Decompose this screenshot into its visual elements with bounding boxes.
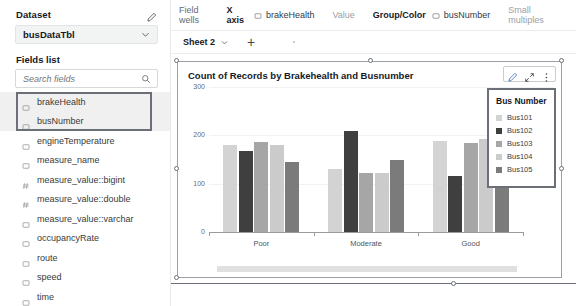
string-field-icon	[432, 6, 440, 24]
legend-item[interactable]: Bus105	[496, 163, 554, 176]
x-axis-tick	[523, 232, 524, 236]
field-list-item[interactable]: measure_value::varchar	[0, 209, 170, 229]
chart-bar[interactable]	[223, 145, 237, 232]
chevron-down-icon	[140, 26, 151, 44]
chart-bar[interactable]	[254, 142, 268, 232]
number-field-icon	[22, 195, 30, 203]
legend-swatch	[496, 141, 502, 147]
dataset-select[interactable]: busDataTbl	[15, 25, 158, 44]
legend-swatch	[496, 167, 502, 173]
fields-list: brakeHealthbusNumberengineTemperaturemea…	[0, 92, 170, 306]
group-color-label: Group/Color	[373, 10, 426, 20]
x-axis-tick	[418, 232, 419, 236]
search-fields-box[interactable]	[15, 69, 158, 88]
x-axis-label: X axis	[227, 5, 248, 25]
pencil-icon[interactable]	[146, 9, 157, 20]
x-axis-tick	[209, 232, 210, 236]
field-list-item[interactable]: occupancyRate	[0, 229, 170, 249]
resize-handle-mr[interactable]	[559, 166, 564, 171]
legend[interactable]: Bus Number Bus101Bus102Bus103Bus104Bus10…	[487, 88, 556, 188]
expand-arrows-icon[interactable]	[524, 69, 535, 80]
plus-icon[interactable]: +	[241, 35, 261, 49]
field-list-item[interactable]: busNumber	[0, 112, 170, 132]
resize-handle-ml[interactable]	[174, 166, 179, 171]
legend-swatch	[496, 154, 502, 160]
resize-handle-tl[interactable]	[174, 58, 179, 63]
sheet-tab-label: Sheet 2	[183, 37, 215, 47]
string-field-icon	[22, 293, 30, 301]
field-list-item[interactable]: speed	[0, 268, 170, 288]
field-list-item-label: busNumber	[37, 116, 84, 126]
x-axis-category-label: Moderate	[314, 239, 419, 248]
string-field-icon	[22, 98, 30, 106]
x-axis-field-pill[interactable]: brakeHealth	[254, 6, 315, 24]
legend-item[interactable]: Bus101	[496, 111, 554, 124]
scrollbar-thumb[interactable]	[217, 266, 517, 272]
resize-handle-tc[interactable]	[368, 58, 373, 63]
chart-bar[interactable]	[344, 131, 358, 232]
group-color-field-pill[interactable]: busNumber	[432, 6, 491, 24]
right-content-area: Field wells X axis brakeHealth Value Gro…	[171, 0, 576, 306]
chart-bar[interactable]	[270, 145, 284, 232]
chart-bar[interactable]	[433, 141, 447, 232]
y-axis-tick-label: 100	[187, 180, 205, 187]
field-list-item-label: time	[37, 292, 54, 302]
field-list-item[interactable]: engineTemperature	[0, 131, 170, 151]
legend-swatch	[496, 115, 502, 121]
field-list-item-label: occupancyRate	[37, 233, 99, 243]
visual-container[interactable]: Count of Records by Brakehealth and Busn…	[177, 61, 562, 278]
search-input[interactable]	[23, 74, 138, 84]
dataset-value: busDataTbl	[23, 29, 75, 40]
field-list-item-label: measure_value::double	[37, 194, 131, 204]
pencil-icon[interactable]	[507, 69, 518, 80]
y-axis-tick-label: 0	[187, 228, 205, 235]
string-field-icon	[22, 215, 30, 223]
string-field-icon	[254, 6, 262, 24]
legend-label: Bus104	[507, 152, 532, 161]
selection-frame-bottom	[171, 283, 576, 284]
small-multiples-label[interactable]: Small multiples	[508, 5, 558, 25]
string-field-icon	[22, 137, 30, 145]
field-list-item[interactable]: measure_value::double	[0, 190, 170, 210]
legend-label: Bus103	[507, 139, 532, 148]
left-panel: Dataset busDataTbl Fields list brakeHeal…	[0, 0, 171, 306]
field-list-item[interactable]: route	[0, 248, 170, 268]
chart-bar[interactable]	[375, 173, 389, 232]
legend-items: Bus101Bus102Bus103Bus104Bus105	[496, 111, 554, 176]
string-field-icon	[22, 254, 30, 262]
field-list-item[interactable]: time	[0, 287, 170, 306]
visual-toolbar[interactable]	[503, 66, 556, 82]
dataset-header: Dataset	[0, 0, 170, 23]
chart-bar[interactable]	[448, 176, 462, 232]
field-list-item[interactable]: measure_value::bigint	[0, 170, 170, 190]
chart-title: Count of Records by Brakehealth and Busn…	[188, 70, 413, 81]
kebab-menu-icon[interactable]	[541, 69, 552, 80]
legend-label: Bus105	[507, 165, 532, 174]
chevron-down-icon[interactable]	[220, 33, 229, 51]
resize-handle-bottom-center[interactable]	[451, 281, 456, 286]
chart-bar[interactable]	[328, 169, 342, 232]
search-icon[interactable]	[141, 70, 151, 88]
field-list-item[interactable]: measure_name	[0, 151, 170, 171]
chart-bar[interactable]	[464, 143, 478, 232]
legend-label: Bus101	[507, 113, 532, 122]
string-field-icon	[22, 117, 30, 125]
chart-bar[interactable]	[390, 160, 404, 232]
resize-handle-bl[interactable]	[174, 275, 179, 280]
string-field-icon	[22, 156, 30, 164]
legend-item[interactable]: Bus104	[496, 150, 554, 163]
horizontal-scrollbar[interactable]	[217, 266, 517, 272]
string-field-icon	[22, 234, 30, 242]
legend-item[interactable]: Bus103	[496, 137, 554, 150]
sheet-tab-sheet-2[interactable]: Sheet 2	[181, 31, 238, 54]
field-list-item-label: brakeHealth	[37, 97, 86, 107]
legend-item[interactable]: Bus102	[496, 124, 554, 137]
x-axis-line	[209, 232, 523, 233]
chart-bar[interactable]	[359, 173, 373, 232]
field-list-item[interactable]: brakeHealth	[0, 92, 170, 112]
value-well-label[interactable]: Value	[332, 10, 354, 20]
chart-bar[interactable]	[285, 162, 299, 232]
x-axis-tick	[314, 232, 315, 236]
resize-handle-tr[interactable]	[559, 58, 564, 63]
chart-bar[interactable]	[239, 151, 253, 232]
